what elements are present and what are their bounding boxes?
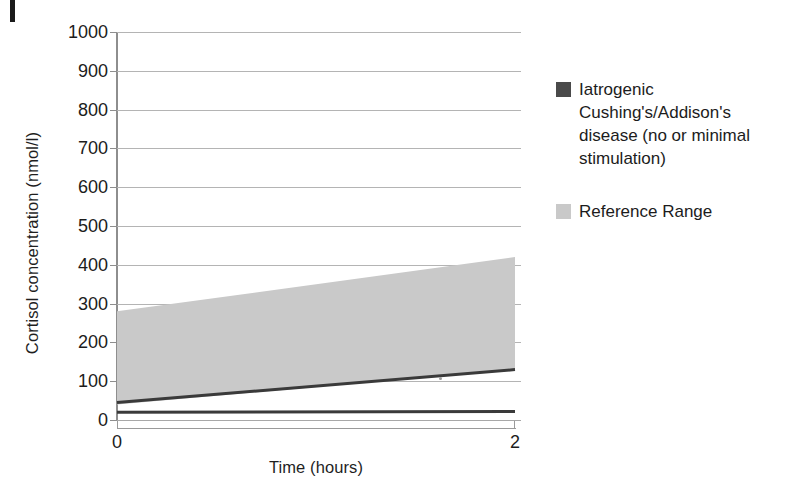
chart-legend: Iatrogenic Cushing's/Addison's disease (… [556,78,801,253]
x-tick-label: 0 [112,432,122,453]
y-tick-mark [110,265,117,266]
data-series-group [117,32,515,420]
y-tick-label: 100 [78,371,108,392]
scan-speck [439,377,442,380]
y-tick-mark [110,420,117,421]
y-tick-label: 200 [78,332,108,353]
x-axis-cap-left [117,421,118,429]
x-tick-label: 2 [510,432,520,453]
y-tick-label: 900 [78,60,108,81]
plot-area: 01002003004005006007008009001000 [117,32,515,420]
y-tick-mark [110,32,117,33]
y-tick-mark [110,226,117,227]
y-tick-label: 0 [98,410,108,431]
legend-label: Iatrogenic Cushing's/Addison's disease (… [579,78,789,170]
y-tick-mark [110,342,117,343]
gridline [117,420,521,421]
data-line [117,411,515,412]
reference-range-band [117,257,515,404]
legend-label: Reference Range [579,200,712,223]
legend-entry[interactable]: Reference Range [556,200,801,223]
x-axis-line [117,428,516,429]
page-edge-artifact [10,0,15,22]
y-tick-label: 400 [78,254,108,275]
y-tick-label: 1000 [68,22,108,43]
legend-entry[interactable]: Iatrogenic Cushing's/Addison's disease (… [556,78,801,170]
y-tick-label: 300 [78,293,108,314]
y-tick-mark [110,110,117,111]
x-axis-title: Time (hours) [117,458,515,477]
y-axis-title: Cortisol concentration (nmol/l) [17,33,47,453]
legend-swatch-reference-range [556,204,571,219]
y-tick-label: 800 [78,99,108,120]
y-tick-mark [110,381,117,382]
y-tick-mark [110,71,117,72]
y-tick-label: 600 [78,177,108,198]
y-tick-mark [110,304,117,305]
legend-swatch-iatrogenic [556,82,571,97]
y-tick-label: 700 [78,138,108,159]
y-tick-mark [110,187,117,188]
x-axis-cap-right [514,421,515,429]
figure-container: Cortisol concentration (nmol/l) 01002003… [0,0,805,495]
y-tick-label: 500 [78,216,108,237]
y-tick-mark [110,148,117,149]
